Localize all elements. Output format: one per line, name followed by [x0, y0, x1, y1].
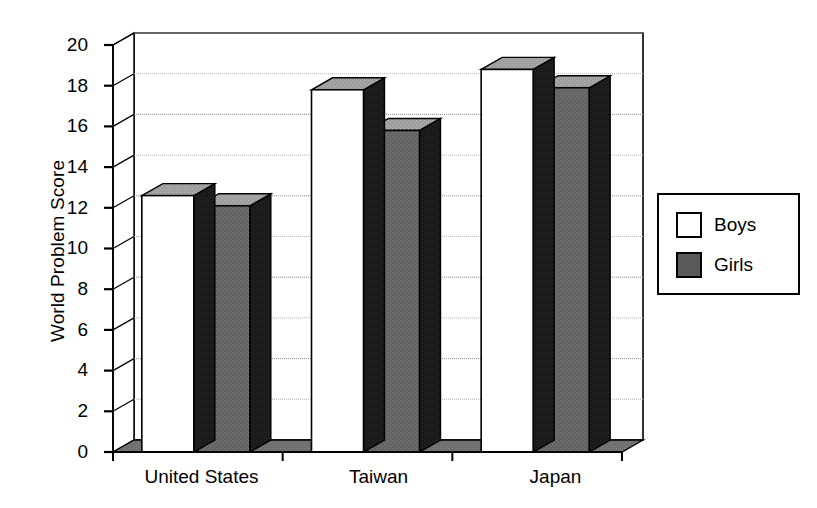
legend-item-girls: Girls	[676, 252, 753, 278]
legend-item-boys: Boys	[676, 212, 756, 238]
x-label-united-states: United States	[113, 466, 290, 488]
x-axis-tick-labels: United States Taiwan Japan	[113, 466, 643, 494]
bar-side-face	[250, 194, 271, 452]
bar-side-face	[420, 118, 441, 452]
x-label-japan: Japan	[467, 466, 644, 488]
legend-label-girls: Girls	[714, 254, 753, 276]
bar-united-states-boys	[142, 184, 215, 452]
bar-chart: World Problem Score 20 18 16 14 12 10 8 …	[0, 0, 817, 508]
bar-side-face	[194, 184, 215, 452]
gray-square-icon	[676, 252, 702, 278]
x-label-taiwan: Taiwan	[290, 466, 467, 488]
legend: Boys Girls	[657, 193, 800, 295]
bar-side-face	[533, 57, 554, 452]
bar-japan-boys	[481, 57, 554, 452]
bar-taiwan-boys	[312, 78, 385, 452]
bar-front-face	[142, 196, 194, 452]
legend-label-boys: Boys	[714, 214, 756, 236]
bar-front-face	[481, 69, 533, 452]
bar-side-face	[589, 76, 610, 452]
bar-front-face	[312, 90, 364, 452]
white-square-icon	[676, 212, 702, 238]
bar-side-face	[364, 78, 385, 452]
